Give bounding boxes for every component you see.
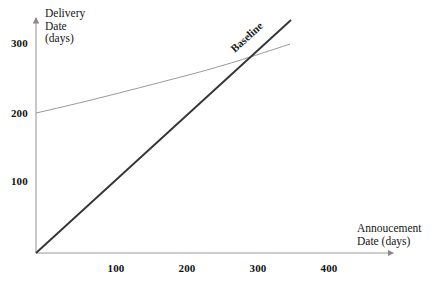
y-axis-title-line-3: (days)	[45, 32, 85, 45]
x-axis-title-line-2: Date (days)	[357, 235, 422, 248]
x-axis-title-line-1: Annoucement	[357, 222, 422, 235]
y-axis-title-line-1: Delivery	[45, 7, 85, 20]
x-tick-label-400: 400	[309, 262, 349, 274]
chart-container: 300 200 100 100 200 300 400 Delivery Dat…	[0, 0, 441, 289]
y-tick-label-300: 300	[0, 37, 28, 49]
y-axis-title-line-2: Date	[45, 20, 85, 33]
x-axis-title: Annoucement Date (days)	[357, 222, 422, 247]
y-tick-label-100: 100	[0, 175, 28, 187]
y-axis-title: Delivery Date (days)	[45, 7, 85, 45]
x-tick-label-100: 100	[96, 262, 136, 274]
x-tick-label-300: 300	[238, 262, 278, 274]
series-delivery-curve	[36, 44, 290, 113]
series-baseline	[36, 20, 291, 253]
x-tick-label-200: 200	[167, 262, 207, 274]
y-tick-label-200: 200	[0, 107, 28, 119]
